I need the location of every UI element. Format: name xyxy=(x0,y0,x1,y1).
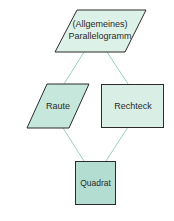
edge-rectangle-square xyxy=(106,127,128,161)
edge-rhombus-square xyxy=(63,128,84,161)
edge-parallelogram-rhombus xyxy=(64,52,84,84)
node-parallelogram-line1: (Allgemeines) xyxy=(60,18,140,30)
node-square-label: Quadrat xyxy=(75,177,116,189)
node-parallelogram-line2: Parallelogramm xyxy=(60,30,140,42)
node-rectangle-label: Rechteck xyxy=(102,100,164,112)
edge-parallelogram-rectangle xyxy=(107,52,128,84)
node-rhombus-label: Raute xyxy=(33,100,83,112)
node-parallelogram-label: (Allgemeines) Parallelogramm xyxy=(60,18,140,42)
